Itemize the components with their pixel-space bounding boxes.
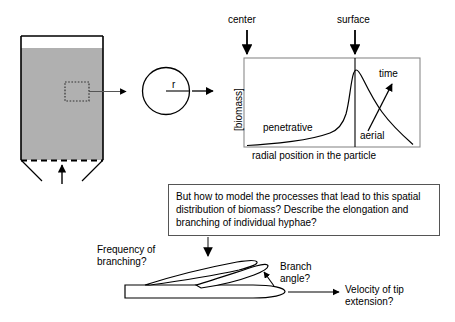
chart-x-axis-label: radial position in the particle [252, 150, 376, 162]
vessel-headspace [21, 36, 103, 48]
chart-aerial-label: aerial [360, 130, 384, 142]
chart-surface-label: surface [337, 14, 370, 26]
chart-time-label: time [379, 68, 398, 80]
particle-radius-label: r [172, 79, 175, 91]
frequency-of-branching-label: Frequency of branching? [97, 244, 155, 267]
fermenter-vessel-group [21, 36, 126, 184]
chart-center-label: center [228, 14, 256, 26]
particle-group [143, 68, 214, 115]
diagram-canvas: r center surface [biomass] radial positi… [0, 0, 455, 322]
velocity-of-tip-extension-label: Velocity of tip extension? [345, 284, 404, 307]
chart-penetrative-label: penetrative [263, 122, 312, 134]
vessel-medium-fill [21, 48, 103, 160]
chart-y-axis-label: [biomass] [233, 88, 244, 131]
question-text-box: But how to model the processes that lead… [168, 184, 440, 236]
diagram-vector-layer [0, 0, 455, 322]
branch-angle-leader-line [264, 272, 274, 286]
branch-angle-label: Branch angle? [280, 261, 312, 284]
